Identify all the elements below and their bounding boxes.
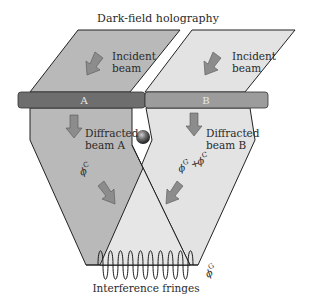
- diffracted-label-b-2: beam B: [206, 139, 246, 151]
- diffracted-label-b-1: Diffracted: [206, 127, 260, 139]
- incident-label-a-2: beam: [112, 62, 141, 74]
- bar-a-label: A: [79, 95, 88, 106]
- incident-label-b-2: beam: [232, 62, 261, 74]
- dark-field-holography-diagram: Dark-field holography A B Incident beam …: [0, 0, 312, 307]
- gradient-phase-label: ϕ G: [202, 262, 219, 280]
- bar-b-label: B: [202, 95, 209, 106]
- diagram-title: Dark-field holography: [97, 12, 220, 25]
- incident-label-a-1: Incident: [112, 50, 157, 62]
- diffracted-label-a-2: beam A: [85, 139, 125, 151]
- incident-label-b-1: Incident: [232, 50, 277, 62]
- fringes-label: Interference fringes: [92, 282, 199, 294]
- diffracted-label-a-1: Diffracted: [85, 127, 139, 139]
